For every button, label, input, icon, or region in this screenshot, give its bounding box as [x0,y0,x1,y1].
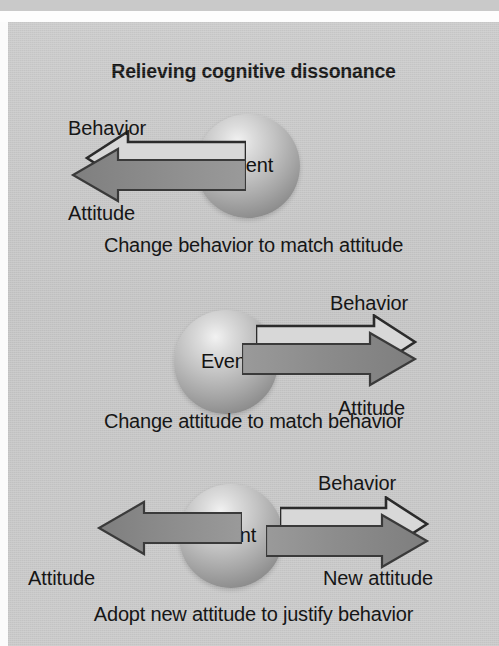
label-new-attitude-3: New attitude [323,567,433,590]
arrow-attitude-left-solid-3 [96,500,242,556]
figure-title: Relieving cognitive dissonance [8,60,499,83]
top-decorative-bar [0,0,499,11]
top-white-gap [0,11,499,22]
figure-panel: Relieving cognitive dissonance [8,22,499,646]
arrow-attitude-right-solid [242,331,418,387]
label-behavior-3: Behavior [318,472,396,495]
arrow-new-attitude-right-solid-3 [266,513,430,569]
caption-3: Adopt new attitude to justify behavior [8,603,499,626]
label-attitude-3: Attitude [28,567,95,590]
label-attitude-1: Attitude [68,202,135,225]
label-behavior-1: Behavior [68,117,146,140]
label-behavior-2: Behavior [330,292,408,315]
arrow-attitude-left-solid [70,147,246,203]
caption-2: Change attitude to match behavior [8,410,499,433]
panel-left-margin [0,22,8,646]
caption-1: Change behavior to match attitude [8,234,499,257]
figure-root: Relieving cognitive dissonance [0,0,499,646]
